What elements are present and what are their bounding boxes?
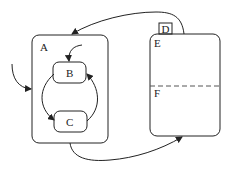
transition-c-to-b [87,74,98,121]
state-d[interactable]: E F [150,34,220,136]
transition-a-to-d [70,137,182,160]
transition-b-to-c [42,74,54,120]
region-e-label: E [154,37,161,49]
state-c-label: C [66,116,73,128]
state-b-label: B [66,67,73,79]
transition-external-to-a [12,64,31,89]
state-a-label: A [40,41,48,53]
state-b[interactable]: B [53,62,86,83]
region-f-label: F [154,87,160,99]
state-c[interactable]: C [54,111,87,132]
statechart-diagram: A B C E F D [0,0,227,172]
state-d-tab[interactable]: D [159,23,172,35]
transition-default-to-b [69,45,82,61]
state-d-label: D [162,23,170,35]
